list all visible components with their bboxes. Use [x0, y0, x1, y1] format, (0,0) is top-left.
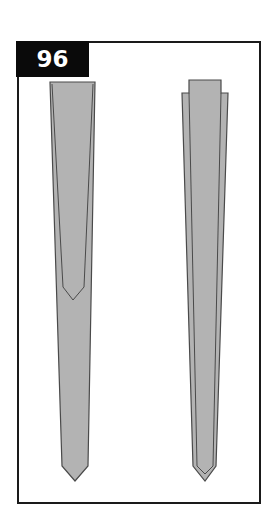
right-shape-outer [182, 80, 228, 481]
left-tapered-shape [50, 82, 95, 481]
diagram-shapes [0, 0, 277, 522]
left-shape-outer [50, 82, 95, 481]
right-tapered-shape [182, 80, 228, 481]
